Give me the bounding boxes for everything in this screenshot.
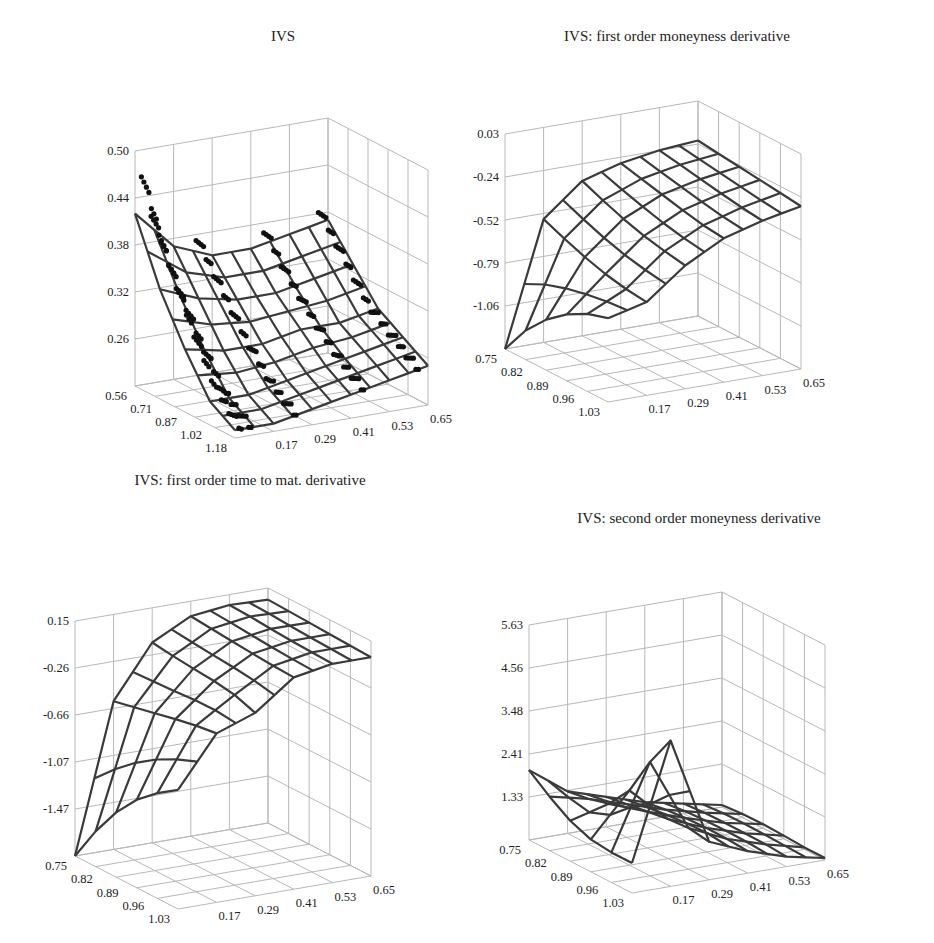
svg-text:0.17: 0.17 (276, 438, 298, 452)
svg-text:-0.24: -0.24 (473, 170, 500, 184)
svg-text:2.41: 2.41 (501, 747, 523, 761)
svg-text:0.50: 0.50 (107, 144, 129, 158)
chart-panel-ivs: IVS 0.260.320.380.440.500.560.710.871.02… (0, 0, 467, 460)
surface-mesh (529, 741, 825, 864)
svg-text:3.48: 3.48 (501, 704, 523, 718)
maturity-axis-ticks: 0.170.290.410.530.65 (649, 376, 825, 416)
svg-text:0.87: 0.87 (155, 415, 177, 429)
svg-text:0.65: 0.65 (827, 867, 849, 881)
svg-text:0.82: 0.82 (71, 872, 93, 886)
surface-plot-moneyness-derivative: -1.06-0.79-0.52-0.240.030.750.820.890.96… (467, 0, 934, 460)
svg-text:0.29: 0.29 (687, 396, 709, 410)
svg-text:0.89: 0.89 (527, 379, 549, 393)
svg-text:0.17: 0.17 (649, 402, 671, 416)
svg-text:0.53: 0.53 (334, 890, 356, 904)
svg-text:0.96: 0.96 (576, 883, 598, 897)
svg-text:0.41: 0.41 (296, 896, 318, 910)
svg-text:-1.07: -1.07 (43, 755, 69, 769)
svg-text:0.03: 0.03 (477, 127, 499, 141)
svg-text:-1.06: -1.06 (473, 299, 499, 313)
svg-text:-0.26: -0.26 (43, 661, 69, 675)
svg-text:0.26: 0.26 (107, 332, 129, 346)
svg-text:-0.52: -0.52 (473, 214, 499, 228)
svg-text:1.18: 1.18 (205, 441, 227, 455)
svg-text:0.53: 0.53 (391, 419, 413, 433)
svg-text:1.03: 1.03 (148, 912, 170, 926)
svg-text:0.29: 0.29 (711, 887, 733, 901)
svg-text:0.65: 0.65 (803, 376, 825, 390)
observed-data-points (139, 174, 421, 432)
svg-text:1.03: 1.03 (578, 405, 600, 419)
svg-text:4.56: 4.56 (501, 661, 523, 675)
svg-text:0.29: 0.29 (314, 432, 336, 446)
surface-plot-second-moneyness-derivative: 1.332.413.484.565.630.750.820.890.961.03… (467, 480, 934, 943)
svg-text:0.75: 0.75 (475, 352, 497, 366)
svg-text:0.71: 0.71 (130, 402, 152, 416)
surface-plot-ivs: 0.260.320.380.440.500.560.710.871.021.18… (0, 0, 467, 460)
svg-text:0.32: 0.32 (107, 285, 129, 299)
axis-grid (529, 592, 825, 893)
z-axis-ticks: 1.332.413.484.565.63 (501, 618, 523, 804)
svg-text:1.33: 1.33 (501, 790, 523, 804)
svg-text:0.75: 0.75 (45, 859, 67, 873)
svg-text:0.38: 0.38 (107, 238, 129, 252)
maturity-axis-ticks: 0.170.290.410.530.65 (219, 883, 395, 923)
svg-text:0.29: 0.29 (257, 903, 279, 917)
svg-text:0.41: 0.41 (750, 880, 772, 894)
maturity-axis-ticks: 0.170.290.410.530.65 (276, 412, 452, 452)
svg-text:0.75: 0.75 (499, 843, 521, 857)
z-axis-ticks: 0.260.320.380.440.50 (107, 144, 130, 346)
svg-text:0.96: 0.96 (122, 899, 144, 913)
z-axis-ticks: -1.06-0.79-0.52-0.240.03 (473, 127, 500, 313)
svg-text:0.53: 0.53 (764, 383, 786, 397)
svg-text:0.53: 0.53 (788, 874, 810, 888)
svg-text:0.17: 0.17 (219, 909, 241, 923)
svg-text:0.44: 0.44 (107, 191, 130, 205)
svg-text:0.15: 0.15 (47, 614, 69, 628)
chart-panel-moneyness-derivative: IVS: first order moneyness derivative -1… (467, 0, 934, 460)
svg-text:0.89: 0.89 (97, 886, 119, 900)
maturity-axis-ticks: 0.170.290.410.530.65 (673, 867, 849, 907)
z-axis-ticks: -1.47-1.07-0.66-0.260.15 (43, 614, 69, 816)
svg-text:0.82: 0.82 (501, 365, 523, 379)
surface-plot-maturity-derivative: -1.47-1.07-0.66-0.260.150.750.820.890.96… (0, 460, 467, 943)
svg-text:0.96: 0.96 (552, 392, 574, 406)
svg-text:0.89: 0.89 (551, 870, 573, 884)
svg-text:0.41: 0.41 (353, 425, 375, 439)
svg-text:0.82: 0.82 (525, 856, 547, 870)
svg-text:1.02: 1.02 (180, 428, 202, 442)
svg-text:0.56: 0.56 (105, 389, 127, 403)
svg-text:0.65: 0.65 (430, 412, 452, 426)
axis-grid (505, 101, 801, 402)
svg-text:5.63: 5.63 (501, 618, 523, 632)
surface-mesh (75, 600, 371, 856)
svg-text:-0.66: -0.66 (43, 708, 69, 722)
svg-text:-0.79: -0.79 (473, 257, 499, 271)
surface-mesh (505, 141, 801, 350)
chart-panel-maturity-derivative: IVS: first order time to mat. derivative… (0, 460, 467, 943)
svg-text:1.03: 1.03 (602, 896, 624, 910)
chart-panel-second-moneyness-derivative: IVS: second order moneyness derivative 1… (467, 480, 934, 943)
svg-text:0.17: 0.17 (673, 893, 695, 907)
svg-text:-1.47: -1.47 (43, 802, 69, 816)
svg-text:0.65: 0.65 (373, 883, 395, 897)
svg-text:0.41: 0.41 (726, 389, 748, 403)
